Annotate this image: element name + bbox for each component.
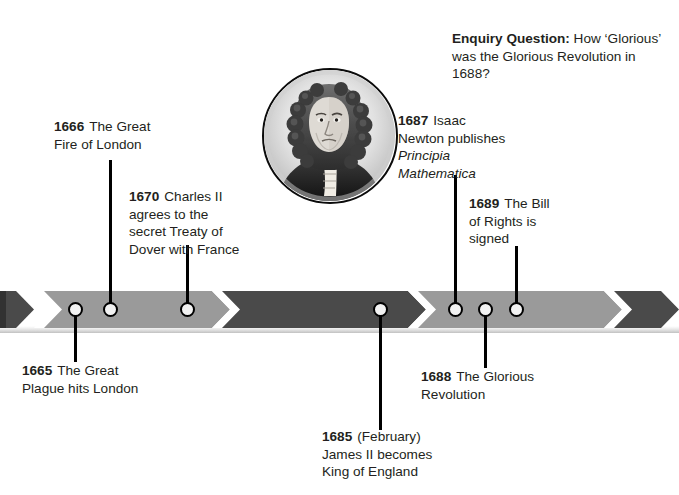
stem-1688 <box>484 312 487 368</box>
event-1689-line2: of Rights is <box>469 214 536 229</box>
event-1665-line1: The Great <box>57 363 118 378</box>
event-1685-line2: James II becomes <box>322 447 432 462</box>
event-1685-line3: King of England <box>322 464 418 479</box>
enquiry-question-label: Enquiry Question: <box>452 31 570 46</box>
event-1670-line4: Dover with France <box>129 242 239 257</box>
marker-1665[interactable] <box>68 302 83 317</box>
event-1666-line1: The Great <box>89 119 150 134</box>
event-1670-year: 1670 <box>129 189 159 204</box>
event-1685-year: 1685 <box>322 429 352 444</box>
event-1688-year: 1688 <box>421 369 451 384</box>
event-1689-line3: signed <box>469 231 509 246</box>
isaac-newton-portrait-medallion <box>262 68 398 204</box>
event-1687-line4: Mathematica <box>398 166 476 181</box>
event-1687-line3: Principia <box>398 148 450 163</box>
event-1666-line2: Fire of London <box>54 137 142 152</box>
event-1688-line1: The Glorious <box>456 369 534 384</box>
timeline-infographic: Enquiry Question: How ‘Glorious’ was the… <box>0 0 679 495</box>
event-1666: 1666The Great Fire of London <box>54 118 234 153</box>
event-1665-line2: Plague hits London <box>22 381 138 396</box>
event-1689-year: 1689 <box>469 196 499 211</box>
stem-1689 <box>515 246 518 307</box>
event-1670: 1670Charles II agrees to the secret Trea… <box>129 188 299 258</box>
stem-1666 <box>109 160 112 307</box>
event-1670-line1: Charles II <box>164 189 222 204</box>
event-1689: 1689The Bill of Rights is signed <box>469 195 609 248</box>
event-1687-year: 1687 <box>398 113 428 128</box>
marker-1685[interactable] <box>373 302 388 317</box>
event-1665: 1665The Great Plague hits London <box>22 362 212 397</box>
event-1670-line3: secret Treaty of <box>129 224 223 239</box>
marker-1688[interactable] <box>478 302 493 317</box>
event-1685-line1: (February) <box>357 429 420 444</box>
event-1688: 1688The Glorious Revolution <box>421 368 601 403</box>
marker-1666[interactable] <box>103 302 118 317</box>
event-1685: 1685(February) James II becomes King of … <box>322 428 522 481</box>
marker-1689[interactable] <box>509 302 524 317</box>
event-1665-year: 1665 <box>22 363 52 378</box>
event-1687: 1687Isaac Newton publishes Principia Mat… <box>398 112 548 182</box>
segment-2-dark <box>222 291 426 328</box>
event-1687-line1: Isaac <box>433 113 466 128</box>
stem-1687 <box>454 175 457 307</box>
timeline-band <box>0 291 679 328</box>
stem-1665 <box>74 312 77 362</box>
marker-1687[interactable] <box>448 302 463 317</box>
portrait-engraving <box>264 70 395 201</box>
enquiry-question: Enquiry Question: How ‘Glorious’ was the… <box>452 30 667 83</box>
event-1689-line1: The Bill <box>504 196 549 211</box>
stem-1685 <box>379 312 382 430</box>
marker-1670[interactable] <box>180 302 195 317</box>
event-1688-line2: Revolution <box>421 387 485 402</box>
event-1666-year: 1666 <box>54 119 84 134</box>
event-1687-line2: Newton publishes <box>398 131 505 146</box>
event-1670-line2: agrees to the <box>129 207 208 222</box>
